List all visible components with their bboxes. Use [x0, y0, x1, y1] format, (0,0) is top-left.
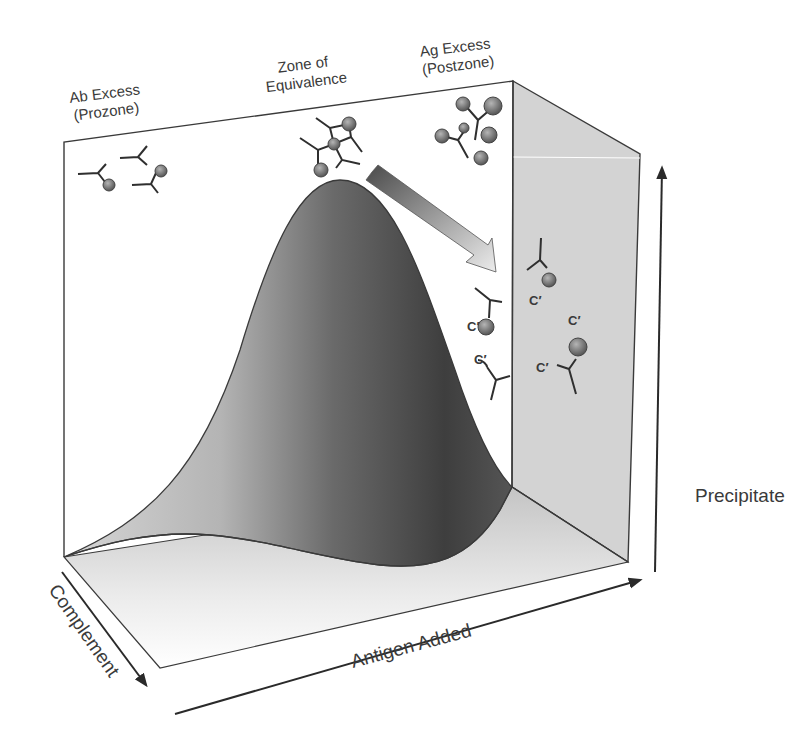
svg-text:C′: C′ — [467, 319, 480, 334]
precipitate-axis-label: Precipitate — [695, 485, 785, 506]
zone-label-postzone: Ag Excess (Postzone) — [419, 34, 495, 78]
postzone-molecules-icon — [435, 97, 502, 165]
precipitation-curve — [64, 180, 512, 566]
antigen-axis-label: Antigen Added — [349, 620, 474, 672]
svg-text:C′: C′ — [568, 313, 581, 328]
equivalence-lattice-icon — [300, 117, 362, 177]
svg-text:C′: C′ — [529, 293, 542, 308]
prozone-molecules-icon — [78, 146, 167, 193]
zone-label-prozone: Ab Excess (Prozone) — [68, 80, 143, 123]
precipitate-axis-arrow — [655, 168, 662, 572]
precipitation-diagram: Ab Excess (Prozone) Zone of Equivalence … — [0, 0, 808, 731]
svg-text:C′: C′ — [536, 360, 549, 375]
zone-label-equivalence: Zone of Equivalence — [263, 51, 348, 96]
svg-text:C′: C′ — [474, 352, 487, 367]
